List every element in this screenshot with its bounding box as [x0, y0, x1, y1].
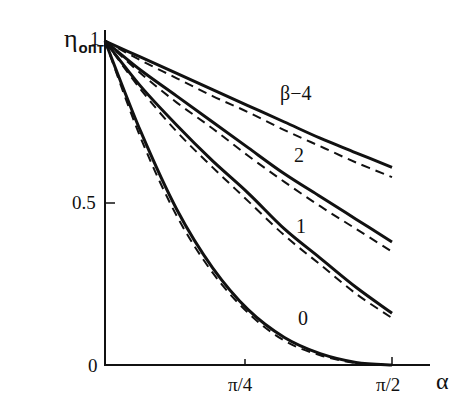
- x-tick-label-pi2: π/2: [376, 374, 400, 396]
- curve--1-solid: [105, 41, 392, 313]
- curve--0-dashed: [105, 41, 392, 365]
- origin-label: 0: [88, 355, 98, 377]
- chart-canvas: [0, 0, 473, 408]
- curves: [105, 41, 392, 365]
- x-axis-label: α: [436, 368, 449, 395]
- curve--0-solid: [105, 41, 392, 365]
- curve-label-beta4: β−4: [280, 82, 311, 105]
- y-tick-label-1: 1: [90, 28, 100, 50]
- curve-label-beta2: 2: [294, 144, 304, 167]
- x-tick-label-pi4: π/4: [228, 374, 252, 396]
- curve--1-dashed: [105, 41, 392, 318]
- curve-label-beta0: 0: [298, 307, 308, 330]
- curve-label-beta1: 1: [296, 215, 306, 238]
- y-axis-label-main: η: [64, 24, 78, 53]
- curve--2-solid: [105, 41, 392, 242]
- y-tick-label-0.5: 0.5: [72, 192, 96, 214]
